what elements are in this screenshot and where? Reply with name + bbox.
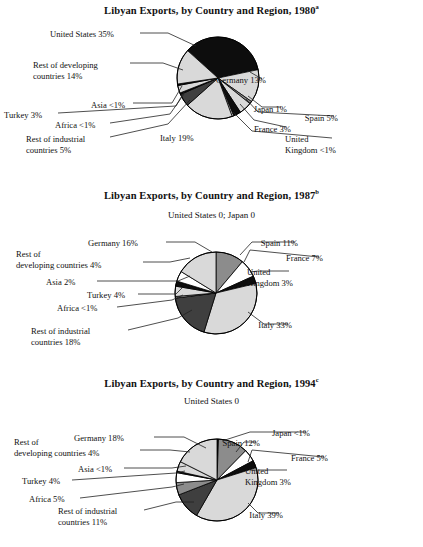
charts-root: Libyan Exports, by Country and Region, 1… [0, 0, 423, 547]
chart-title-text: Libyan Exports, by Country and Region, 1… [104, 190, 315, 201]
chart-section-1: Libyan Exports, by Country and Region, 1… [0, 0, 423, 185]
chart-topnote: United States 0 [0, 396, 423, 406]
chart-title-footnote-marker: b [315, 188, 319, 195]
chart-topnote: United States 0; Japan 0 [0, 210, 423, 220]
chart-section-2: Libyan Exports, by Country and Region, 1… [0, 185, 423, 373]
chart-title: Libyan Exports, by Country and Region, 1… [0, 373, 423, 389]
chart-title-text: Libyan Exports, by Country and Region, 1… [104, 5, 315, 16]
chart-title-text: Libyan Exports, by Country and Region, 1… [104, 378, 315, 389]
chart-title: Libyan Exports, by Country and Region, 1… [0, 185, 423, 201]
chart-title: Libyan Exports, by Country and Region, 1… [0, 0, 423, 16]
chart-title-footnote-marker: a [316, 3, 319, 10]
chart-title-footnote-marker: c [316, 376, 319, 383]
chart-section-3: Libyan Exports, by Country and Region, 1… [0, 373, 423, 547]
